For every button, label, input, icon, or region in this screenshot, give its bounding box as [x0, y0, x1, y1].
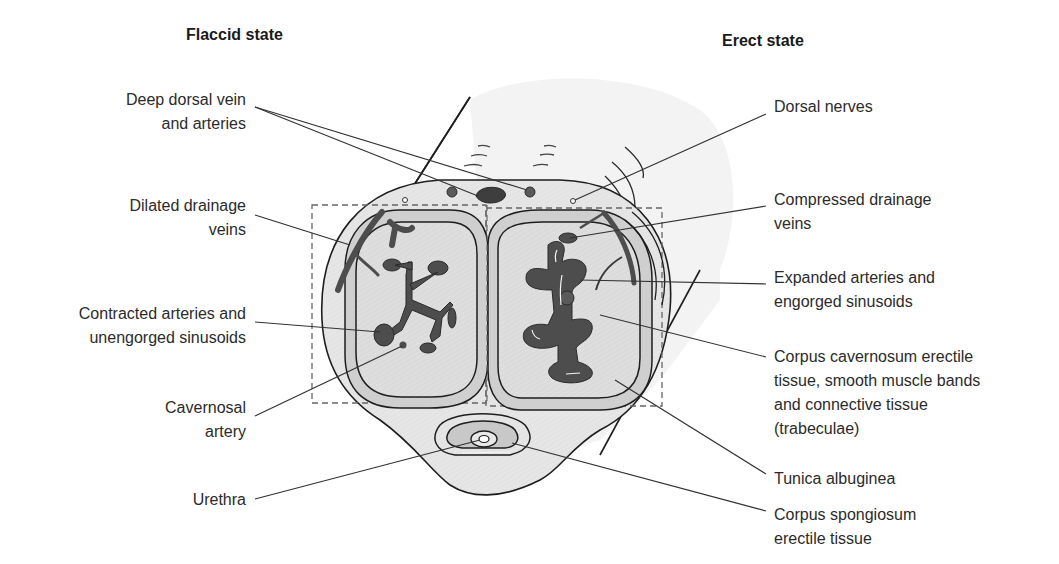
dorsal-nerve-left [403, 198, 408, 203]
label-tunica-albuginea: Tunica albuginea [774, 467, 895, 491]
label-urethra: Urethra [193, 488, 246, 512]
corpus-spongiosum [435, 414, 530, 455]
label-deep-dorsal-vein: Deep dorsal vein and arteries [126, 88, 246, 136]
label-contracted-arteries: Contracted arteries and unengorged sinus… [79, 302, 246, 350]
left-corpus-cavernosum [338, 210, 488, 408]
label-compressed-drainage-veins: Compressed drainage veins [774, 188, 931, 236]
label-dorsal-nerves: Dorsal nerves [774, 95, 873, 119]
deep-dorsal-vein [476, 187, 505, 203]
label-corpus-cavernosum: Corpus cavernosum erectile tissue, smoot… [774, 345, 980, 441]
dorsal-artery-right [525, 187, 535, 197]
dorsal-artery-left [447, 187, 457, 197]
right-corpus-cavernosum [488, 210, 665, 410]
label-cavernosal-artery: Cavernosal artery [165, 396, 246, 444]
urethra-lumen [479, 436, 489, 443]
label-expanded-arteries: Expanded arteries and engorged sinusoids [774, 266, 935, 314]
label-corpus-spongiosum: Corpus spongiosum erectile tissue [774, 503, 916, 551]
label-dilated-drainage-veins: Dilated drainage veins [129, 194, 246, 242]
cavernosal-artery-dot [400, 342, 407, 349]
dorsal-nerve-right [571, 199, 576, 204]
